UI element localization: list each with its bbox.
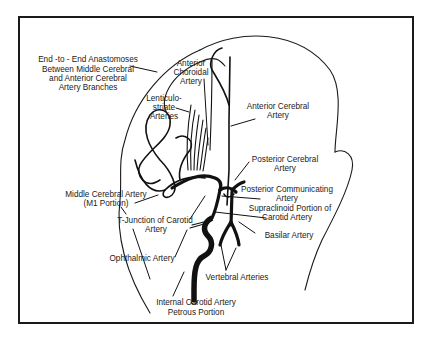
label-posterior-cerebral: Posterior Cerebral Artery [252, 155, 319, 173]
head-outline [119, 36, 353, 313]
label-anterior-choroidal-line2: Choroidal [173, 68, 208, 77]
label-vertebral: Vertebral Arteries [206, 273, 269, 282]
label-t-junction-line2: Artery [145, 225, 168, 234]
label-supraclinoid-line2: Carotid Artery [262, 213, 313, 222]
label-anastomoses: End -to - End Anastomoses Between Middle… [38, 55, 138, 92]
label-lenticulostriate-line1: Lenticulo- [146, 94, 182, 103]
label-lenticulostriate-line3: Arteries [150, 112, 178, 121]
label-supraclinoid: Supraclinoid Portion of Carotid Artery [249, 204, 332, 222]
label-vertebral-line1: Vertebral Arteries [206, 273, 269, 282]
label-supraclinoid-line1: Supraclinoid Portion of [249, 204, 332, 213]
label-middle-cerebral-line1: Middle Cerebral Artery [65, 190, 147, 199]
label-posterior-cerebral-line1: Posterior Cerebral [252, 155, 319, 164]
label-anastomoses-line3: and Anterior Cerebral [49, 74, 127, 83]
label-ophthalmic-line1: Ophthalmic Artery [109, 254, 175, 263]
label-basilar-line1: Basilar Artery [265, 231, 315, 240]
label-posterior-communicating-line2: Artery [276, 194, 299, 203]
label-middle-cerebral-line2: (M1 Portion) [83, 199, 128, 208]
label-anterior-cerebral: Anterior Cerebral Artery [247, 102, 310, 120]
label-anterior-choroidal-line3: Artery [180, 77, 203, 86]
label-posterior-communicating-line1: Posterior Communicating [241, 185, 333, 194]
label-anastomoses-line2: Between Middle Cerebral [42, 65, 134, 74]
label-internal-carotid-line1: Internal Carotid Artery [156, 298, 237, 307]
label-anastomoses-line4: Artery Branches [59, 83, 118, 92]
label-lenticulostriate: Lenticulo- striate Arteries [146, 94, 182, 121]
label-anastomoses-line1: End -to - End Anastomoses [38, 55, 138, 64]
label-anterior-cerebral-line1: Anterior Cerebral [247, 102, 310, 111]
label-anterior-cerebral-line2: Artery [267, 111, 290, 120]
label-anterior-choroidal-line1: Anterior [177, 59, 206, 68]
label-middle-cerebral: Middle Cerebral Artery (M1 Portion) [65, 190, 147, 208]
lenticulostriate-vessels [187, 105, 208, 171]
label-lenticulostriate-line2: striate [153, 103, 176, 112]
label-posterior-communicating: Posterior Communicating Artery [241, 185, 333, 203]
label-basilar: Basilar Artery [265, 231, 315, 240]
label-posterior-cerebral-line2: Artery [274, 164, 297, 173]
label-t-junction-line1: T-Junction of Carotid [117, 216, 193, 225]
label-internal-carotid-petrous: Internal Carotid Artery Petrous Portion [156, 298, 237, 317]
label-internal-carotid-line2: Petrous Portion [168, 308, 225, 317]
label-t-junction: T-Junction of Carotid Artery [117, 216, 193, 234]
label-anterior-choroidal: Anterior Choroidal Artery [173, 59, 208, 86]
diagram-canvas: End -to - End Anastomoses Between Middle… [0, 0, 435, 341]
label-ophthalmic: Ophthalmic Artery [109, 254, 175, 263]
